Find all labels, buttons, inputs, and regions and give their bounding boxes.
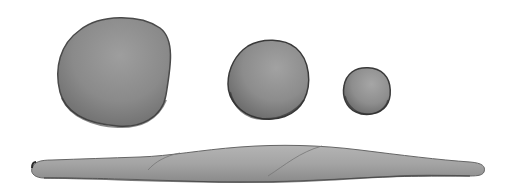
clay-coil	[32, 145, 485, 182]
medium-clay-ball	[228, 40, 309, 119]
illustration-scene: Illustration of three clay balls of decr…	[0, 0, 513, 196]
small-clay-ball	[344, 68, 391, 115]
large-clay-ball	[58, 18, 171, 127]
